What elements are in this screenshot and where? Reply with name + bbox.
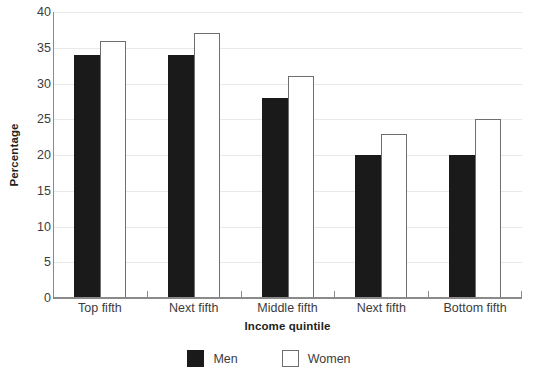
y-tick-label: 20 [24, 149, 51, 162]
legend-item-women: Women [282, 350, 351, 367]
bar-women [475, 119, 501, 298]
gridline [53, 298, 522, 299]
x-axis-line [53, 297, 522, 298]
x-tick-label: Middle fifth [257, 301, 317, 315]
x-tick-label: Top fifth [78, 301, 122, 315]
y-tick-label: 10 [24, 220, 51, 233]
y-tick-label: 40 [24, 6, 51, 19]
y-tick-label: 15 [24, 185, 51, 198]
y-tick-label: 35 [24, 42, 51, 55]
y-axis-tick-labels: 0510152025303540 [24, 12, 51, 298]
bar-men [74, 55, 100, 298]
x-axis-title: Income quintile [53, 320, 522, 332]
bar-women [288, 76, 314, 298]
chart-legend: MenWomen [0, 350, 538, 380]
x-tick-label: Bottom fifth [443, 301, 506, 315]
bars-layer [53, 12, 522, 298]
legend-label: Men [213, 352, 237, 366]
x-tick-label: Next fifth [169, 301, 218, 315]
y-axis-title: Percentage [0, 0, 26, 310]
bar-chart: Percentage 0510152025303540 Top fifthNex… [0, 0, 538, 385]
bar-men [355, 155, 381, 298]
x-tick-label: Next fifth [357, 301, 406, 315]
bar-men [168, 55, 194, 298]
x-axis-title-label: Income quintile [245, 320, 331, 332]
plot-area [53, 12, 522, 298]
y-axis-title-label: Percentage [7, 123, 19, 186]
y-tick-label: 0 [24, 292, 51, 305]
y-tick-label: 25 [24, 113, 51, 126]
bar-women [381, 134, 407, 298]
bar-women [194, 33, 220, 298]
legend-label: Women [308, 352, 351, 366]
bar-women [100, 41, 126, 298]
bar-men [449, 155, 475, 298]
y-tick-label: 30 [24, 77, 51, 90]
x-axis-tick-labels: Top fifthNext fifthMiddle fifthNext fift… [53, 301, 522, 321]
legend-swatch-men [187, 350, 204, 367]
bar-men [262, 98, 288, 298]
legend-item-men: Men [187, 350, 237, 367]
y-tick-label: 5 [24, 256, 51, 269]
legend-swatch-women [282, 350, 299, 367]
